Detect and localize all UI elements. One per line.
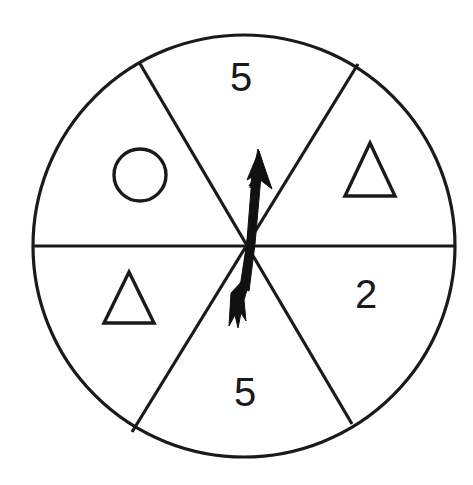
sector-bottom-label: 5 (234, 370, 256, 414)
spinner-figure: 5 2 5 (0, 0, 473, 485)
spinner-canvas: 5 2 5 (0, 0, 473, 485)
sector-lower-right-label: 2 (355, 272, 377, 316)
sector-top-label: 5 (230, 55, 252, 99)
